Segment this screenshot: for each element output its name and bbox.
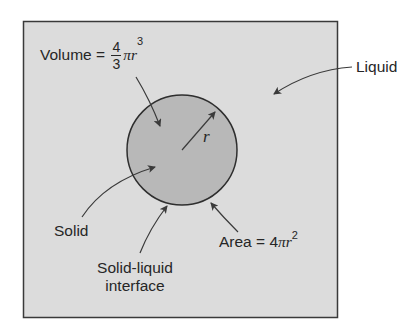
volume-fraction-denominator: 3: [111, 56, 121, 71]
interface-label: Solid-liquid interface: [89, 259, 181, 295]
volume-exponent: 3: [137, 35, 143, 47]
interface-label-line2: interface: [89, 277, 181, 295]
solid-label: Solid: [54, 223, 88, 239]
area-expression: πr: [278, 233, 292, 250]
diagram-canvas: Volume = 43πr3 Liquid r Solid Solid-liqu…: [0, 0, 412, 330]
volume-fraction: 43: [111, 40, 121, 71]
volume-label: Volume = 43πr3: [40, 40, 143, 71]
interface-label-line1: Solid-liquid: [89, 259, 181, 277]
liquid-label: Liquid: [356, 59, 397, 75]
volume-expression: πr: [123, 46, 137, 63]
volume-fraction-numerator: 4: [111, 40, 121, 56]
area-prefix: Area = 4: [219, 233, 278, 250]
volume-prefix: Volume =: [40, 46, 109, 63]
area-label: Area = 4πr2: [219, 234, 298, 250]
radius-label: r: [203, 128, 210, 145]
area-exponent: 2: [292, 229, 298, 241]
